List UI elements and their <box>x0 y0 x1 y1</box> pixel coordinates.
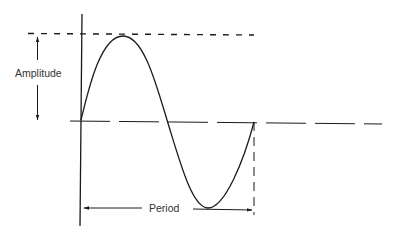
period-arrow-right <box>193 209 252 210</box>
peak-reference-line <box>28 34 254 36</box>
sine-curve <box>81 36 254 208</box>
sine-wave-diagram: Amplitude Period <box>0 0 394 239</box>
baseline <box>70 121 382 124</box>
amplitude-label: Amplitude <box>15 67 62 79</box>
period-label: Period <box>149 202 180 214</box>
